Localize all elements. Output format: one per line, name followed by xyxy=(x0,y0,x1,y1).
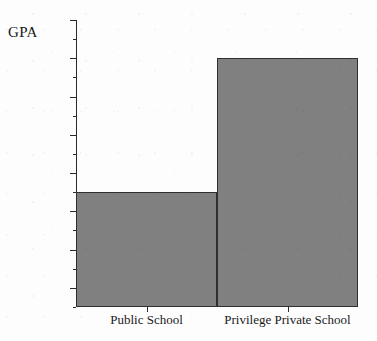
gpa-bar-chart: GPA 4.03.83.63.43.23.02.82.6 Public Scho… xyxy=(0,0,377,341)
y-tick-minor xyxy=(73,39,76,40)
y-tick-minor xyxy=(73,154,76,155)
y-axis-title: GPA xyxy=(8,24,38,41)
bar xyxy=(76,192,217,307)
y-tick-minor xyxy=(73,307,76,308)
plot-area xyxy=(76,20,358,307)
x-tick-label: Privilege Private School xyxy=(224,312,350,328)
bar xyxy=(217,58,358,307)
x-tick-label: Public School xyxy=(110,312,183,328)
y-tick-major xyxy=(70,20,76,21)
y-tick-major xyxy=(70,135,76,136)
y-tick-minor xyxy=(73,116,76,117)
y-tick-minor xyxy=(73,77,76,78)
y-tick-major xyxy=(70,97,76,98)
y-tick-major xyxy=(70,173,76,174)
y-tick-major xyxy=(70,58,76,59)
